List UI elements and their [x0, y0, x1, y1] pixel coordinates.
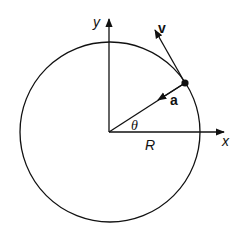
angle-label: θ — [131, 118, 138, 133]
particle-dot — [181, 79, 188, 86]
acceleration-label: a — [170, 92, 178, 108]
circular-motion-diagram: y x v a θ R — [0, 0, 240, 238]
x-axis-label: x — [221, 133, 230, 149]
diagram-canvas: y x v a θ R — [0, 0, 240, 238]
y-axis-label: y — [92, 14, 101, 30]
velocity-label: v — [158, 20, 166, 36]
radius-label: R — [145, 137, 155, 153]
